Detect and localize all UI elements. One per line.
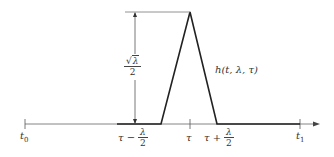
axis-arrowhead-icon [313, 122, 320, 127]
height-arrow-up-icon [133, 12, 137, 17]
tau-label: τ [186, 132, 192, 143]
left-foot-label: τ − λ 2 [118, 127, 148, 148]
sqrt-symbol: √λ [126, 55, 139, 66]
function-label: h(t, λ, τ) [215, 64, 258, 75]
t0-label: t0 [20, 130, 29, 144]
pulse-diagram [0, 0, 334, 157]
t1-label: t1 [296, 130, 305, 144]
height-label: √λ 2 [124, 55, 141, 77]
right-foot-label: τ + λ 2 [204, 127, 234, 148]
